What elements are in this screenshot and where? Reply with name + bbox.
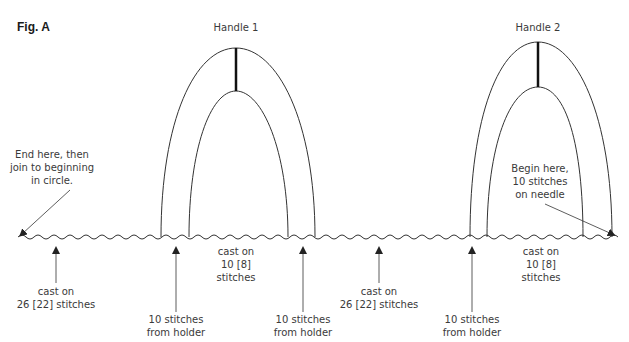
handle-1-shape [161, 48, 315, 237]
cast-on-edge [18, 235, 618, 239]
label-cast-on-26-b: cast on 26 [22] stitches [329, 285, 429, 311]
label-holder-2: 10 stitches from holder [263, 313, 343, 339]
begin-annotation: Begin here, 10 stitches on needle [505, 162, 575, 201]
handle-1-title: Handle 1 [206, 21, 266, 34]
label-cast-on-10-b: cast on 10 [8] stitches [511, 245, 571, 284]
label-cast-on-26-a: cast on 26 [22] stitches [6, 285, 106, 311]
handle-2-shape [470, 42, 612, 237]
handle-2-title: Handle 2 [508, 21, 568, 34]
label-cast-on-10-a: cast on 10 [8] stitches [206, 245, 266, 284]
end-annotation: End here, then join to beginning in circ… [2, 148, 102, 187]
label-holder-1: 10 stitches from holder [136, 313, 216, 339]
label-holder-3: 10 stitches from holder [432, 313, 512, 339]
